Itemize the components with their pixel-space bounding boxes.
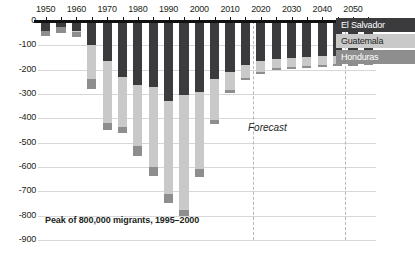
bar-1985[interactable]	[149, 21, 158, 240]
bar-segment-guatemala	[133, 85, 142, 146]
x-tick	[215, 17, 216, 21]
bar-segment-honduras	[302, 66, 311, 68]
bar-segment-el-salvador	[149, 21, 158, 87]
bar-segment-el-salvador	[241, 21, 250, 65]
x-tick	[123, 17, 124, 21]
bar-segment-guatemala	[225, 72, 234, 90]
x-tick	[230, 17, 231, 21]
bar-1965[interactable]	[87, 21, 96, 240]
legend-label-guatemala: Guatemala	[341, 36, 383, 46]
bar-segment-el-salvador	[133, 21, 142, 85]
migration-stacked-bar-chart: 0-100-200-300-400-500-600-700-800-900 19…	[0, 0, 415, 253]
bar-1970[interactable]	[103, 21, 112, 240]
bar-segment-honduras	[164, 194, 173, 204]
bar-segment-guatemala	[164, 101, 173, 193]
x-tick	[92, 17, 93, 21]
bar-segment-honduras	[225, 90, 234, 92]
x-tick-label: 1960	[60, 4, 92, 14]
legend-item-guatemala[interactable]: Guatemala	[336, 34, 415, 48]
x-tick	[199, 17, 200, 21]
bar-segment-guatemala	[318, 56, 327, 65]
bar-segment-guatemala	[287, 58, 296, 67]
x-tick	[292, 17, 293, 21]
x-tick-label: 1950	[30, 4, 62, 14]
zero-axis-line	[34, 20, 376, 23]
bar-segment-honduras	[118, 127, 127, 133]
bar-segment-el-salvador	[87, 21, 96, 45]
bar-segment-honduras	[195, 169, 204, 176]
x-tick	[276, 17, 277, 21]
x-tick-label: 1970	[91, 4, 123, 14]
legend-item-el-salvador[interactable]: El Salvador	[336, 18, 415, 32]
bar-1990[interactable]	[164, 21, 173, 240]
bar-segment-honduras	[287, 67, 296, 69]
bar-segment-guatemala	[179, 95, 188, 209]
forecast-label: Forecast	[248, 122, 287, 133]
bar-1950[interactable]	[41, 21, 50, 240]
bar-2000[interactable]	[195, 21, 204, 240]
x-tick	[46, 17, 47, 21]
legend: El Salvador Guatemala Honduras	[336, 18, 415, 66]
bar-2005[interactable]	[210, 21, 219, 240]
bar-2030[interactable]	[287, 21, 296, 240]
bar-segment-honduras	[56, 27, 65, 33]
x-tick	[261, 17, 262, 21]
bar-1975[interactable]	[118, 21, 127, 240]
bar-segment-honduras	[210, 120, 219, 125]
bar-segment-guatemala	[149, 87, 158, 167]
x-tick	[169, 17, 170, 21]
x-tick	[107, 17, 108, 21]
bar-1955[interactable]	[56, 21, 65, 240]
y-tick-label: -600	[2, 161, 36, 171]
bar-segment-honduras	[241, 78, 250, 80]
bar-segment-honduras	[87, 79, 96, 89]
bar-segment-guatemala	[195, 92, 204, 170]
bar-1980[interactable]	[133, 21, 142, 240]
bar-2040[interactable]	[318, 21, 327, 240]
bar-segment-el-salvador	[103, 21, 112, 61]
bar-2010[interactable]	[225, 21, 234, 240]
x-tick-label: 1990	[153, 4, 185, 14]
x-tick-label: 2000	[183, 4, 215, 14]
bar-segment-el-salvador	[256, 21, 265, 61]
x-tick	[245, 17, 246, 21]
x-tick-label: 2030	[276, 4, 308, 14]
legend-label-honduras: Honduras	[341, 52, 378, 62]
bar-segment-honduras	[41, 31, 50, 36]
bar-segment-honduras	[72, 32, 81, 37]
x-tick	[184, 17, 185, 21]
x-tick-label: 2020	[245, 4, 277, 14]
gridline	[38, 240, 376, 241]
bar-1960[interactable]	[72, 21, 81, 240]
bar-segment-guatemala	[118, 77, 127, 127]
legend-item-honduras[interactable]: Honduras	[336, 50, 415, 64]
x-tick	[153, 17, 154, 21]
bar-segment-honduras	[133, 146, 142, 156]
y-tick-label: -100	[2, 39, 36, 49]
x-tick	[61, 17, 62, 21]
x-tick-label: 2040	[306, 4, 338, 14]
x-tick	[322, 17, 323, 21]
bar-segment-honduras	[256, 72, 265, 74]
bar-segment-guatemala	[272, 59, 281, 69]
bar-segment-honduras	[149, 167, 158, 176]
y-tick-label: -200	[2, 64, 36, 74]
x-tick	[307, 17, 308, 21]
bar-segment-guatemala	[210, 79, 219, 119]
bar-segment-el-salvador	[302, 21, 311, 57]
bar-segment-honduras	[103, 123, 112, 130]
bar-1995[interactable]	[179, 21, 188, 240]
x-tick-label: 2010	[214, 4, 246, 14]
x-tick	[76, 17, 77, 21]
bar-segment-honduras	[272, 68, 281, 70]
legend-label-el-salvador: El Salvador	[341, 20, 385, 30]
bar-segment-guatemala	[87, 45, 96, 79]
y-tick-label: -400	[2, 112, 36, 122]
bar-segment-el-salvador	[195, 21, 204, 92]
y-tick-label: -300	[2, 88, 36, 98]
bar-segment-el-salvador	[287, 21, 296, 58]
bar-segment-guatemala	[103, 61, 112, 123]
bar-segment-honduras	[318, 65, 327, 67]
bar-2035[interactable]	[302, 21, 311, 240]
x-tick-label: 1980	[122, 4, 154, 14]
